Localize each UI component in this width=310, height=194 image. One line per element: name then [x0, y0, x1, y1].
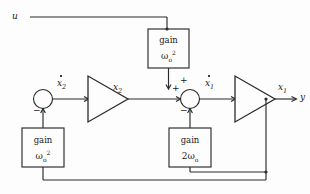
gain-block-left-symbol: ω — [36, 151, 43, 161]
gain-block-left-superscript: 2 — [47, 149, 51, 156]
sign-summer-left-minus: − — [33, 106, 41, 115]
sign-summer-center-minus: − — [180, 106, 188, 115]
label-input-u: u — [12, 12, 18, 21]
label-x1: x1 — [278, 83, 287, 94]
gain-block-top-expression: ωo2 — [148, 50, 189, 63]
gain-block-top-subscript: o — [168, 56, 172, 63]
gain-block-top-superscript: 2 — [172, 49, 176, 56]
gain-block-2omega-subscript: o — [195, 156, 199, 163]
label-x1dot-subscript: 1 — [210, 83, 214, 91]
gain-block-left-subscript: o — [43, 156, 47, 163]
integrator-x1-triangle — [235, 76, 275, 122]
label-x1-subscript: 1 — [283, 87, 287, 95]
label-x2dot-subscript: 2 — [62, 83, 66, 91]
label-x2dot: x2 — [57, 79, 66, 90]
node-inner-feedback-junction — [264, 170, 267, 173]
gain-block-2omega-expression: 2ωo — [169, 150, 211, 163]
gain-block-left-word: gain — [22, 136, 64, 145]
label-x2: x2 — [113, 83, 122, 94]
label-x2-subscript: 2 — [118, 87, 122, 95]
sign-summer-center-plus-left: + — [172, 84, 180, 93]
label-x1dot: x1 — [205, 79, 214, 90]
sign-summer-center-plus-top: + — [180, 76, 188, 85]
gain-block-2omega-symbol: ω — [187, 151, 194, 161]
gain-block-2omega-word: gain — [169, 136, 211, 145]
diagram-svg — [0, 0, 310, 194]
gain-block-left-expression: ωo2 — [22, 150, 64, 163]
block-diagram-canvas: u y x2 x2 x1 x1 − + + − gain ωo2 gain ωo… — [0, 0, 310, 194]
node-u-to-gain-junction — [165, 27, 168, 30]
overdot-x1dot-icon — [208, 75, 210, 77]
label-output-y: y — [300, 93, 305, 102]
overdot-x2dot-icon — [60, 75, 62, 77]
gain-block-top-word: gain — [148, 36, 189, 45]
